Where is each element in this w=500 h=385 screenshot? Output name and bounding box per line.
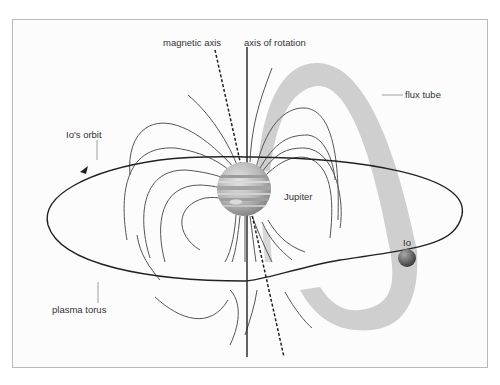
io-orbit-label: Io's orbit	[66, 129, 102, 140]
io-sphere	[398, 249, 416, 267]
axis-of-rotation-label: axis of rotation	[244, 37, 306, 48]
flux-tube-label: flux tube	[405, 89, 441, 100]
magnetosphere-diagram: magnetic axis axis of rotation flux tube…	[0, 0, 500, 385]
flux-tube	[258, 63, 417, 330]
jupiter-label: Jupiter	[284, 191, 313, 202]
plasma-torus-label: plasma torus	[52, 304, 107, 315]
io-label: Io	[403, 237, 411, 248]
orbit-direction-arrow-icon	[80, 166, 88, 174]
magnetic-axis-label: magnetic axis	[163, 37, 221, 48]
